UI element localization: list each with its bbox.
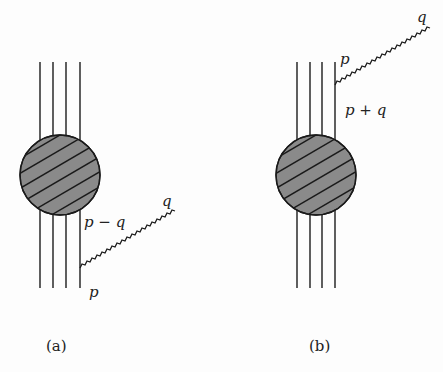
- label-p-minus-q: p − q: [84, 213, 125, 231]
- caption-a: (a): [46, 337, 67, 355]
- feynman-diagrams: q p − q p (a) q p p + q (b): [0, 0, 443, 372]
- hadron-blob: [0, 85, 120, 275]
- label-p: p: [89, 283, 99, 301]
- label-q: q: [162, 192, 172, 210]
- panel-a: q p − q p (a): [0, 62, 175, 355]
- label-p: p: [340, 50, 350, 68]
- caption-b: (b): [309, 337, 330, 355]
- label-q: q: [417, 8, 427, 26]
- panel-b: q p p + q (b): [256, 8, 430, 355]
- label-p-plus-q: p + q: [345, 101, 386, 119]
